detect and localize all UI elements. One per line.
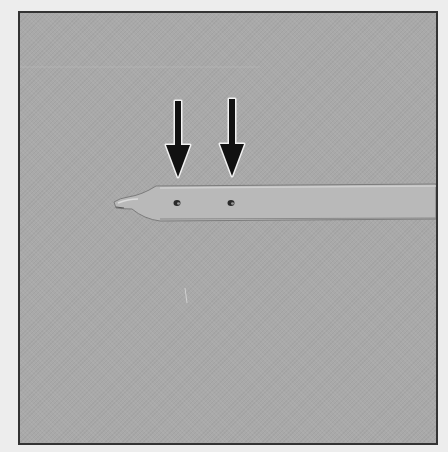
tube [114,184,436,221]
arrow-down-icon [166,101,190,177]
tube-photo [20,13,436,443]
photo-frame [18,11,438,445]
side-hole-2 [228,200,235,206]
side-hole-1 [174,200,181,206]
arrow-down-icon [220,99,244,176]
